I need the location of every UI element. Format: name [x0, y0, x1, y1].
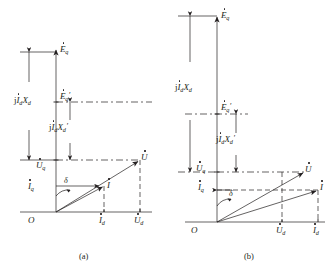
label-jidxd-b: jIdXd	[175, 83, 192, 92]
label-jidxd-a: jIdXd	[14, 96, 31, 105]
label-uq-a: Uq	[36, 161, 46, 170]
label-i-b: I	[320, 183, 323, 192]
label-iq-b: Iq	[198, 183, 204, 192]
label-ud-a: Ud	[134, 216, 144, 225]
label-id-a: Id	[99, 216, 105, 225]
label-eq-prime-b: Eq′	[221, 103, 231, 112]
figure-root: Eq Eq′ jIdXd jIdXd′ Uq Iq δ I U O Id Ud …	[0, 0, 331, 278]
label-origin-b: O	[191, 226, 198, 235]
label-origin-a: O	[28, 216, 35, 225]
label-delta-a: δ	[64, 177, 68, 185]
caption-b: (b)	[244, 251, 254, 261]
label-u-b: U	[305, 165, 312, 174]
label-ud-b: Ud	[276, 226, 286, 235]
phasor-diagram-svg	[0, 0, 331, 278]
label-u-a: U	[141, 153, 148, 162]
label-i-a: I	[107, 181, 110, 190]
label-id-b: Id	[313, 226, 319, 235]
label-eq-b: Eq	[221, 11, 230, 20]
panel-a-graphics	[20, 50, 152, 212]
caption-a: (a)	[79, 251, 88, 261]
label-iq-a: Iq	[28, 182, 34, 191]
label-delta-b: δ	[229, 190, 233, 198]
label-eq-a: Eq	[60, 45, 69, 54]
label-eq-prime-a: Eq′	[60, 92, 70, 101]
label-jidxd-prime-a: jIdXd′	[49, 123, 68, 132]
phasor-u-a	[56, 162, 138, 213]
label-uq-b: Uq	[196, 164, 206, 173]
label-jidxd-prime-b: jIdXd′	[216, 135, 235, 144]
